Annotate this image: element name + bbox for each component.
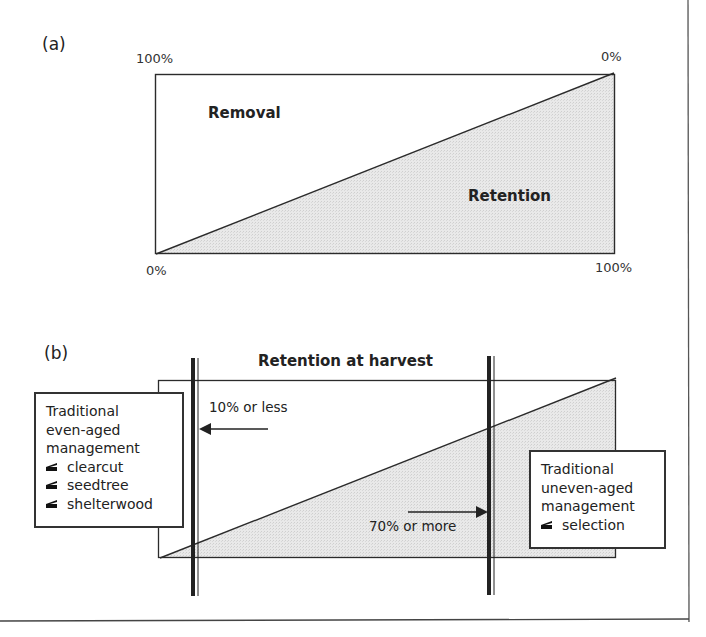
arrow-left-icon (199, 423, 268, 435)
checkbox-tick-icon (46, 463, 57, 471)
method-item-seedtree: seedtree (46, 476, 172, 495)
checkbox-tick-icon (46, 481, 57, 489)
panel-a-chart (156, 73, 615, 254)
threshold-70-label: 70% or more (369, 518, 456, 534)
panel-a-label: (a) (42, 34, 66, 54)
frame-right-edge (688, 0, 689, 622)
uneven-aged-management-box: Traditional uneven-aged management selec… (529, 450, 666, 549)
removal-label: Removal (208, 104, 281, 122)
tick-bottom-right: 100% (595, 260, 632, 275)
panel-b-label: (b) (44, 343, 68, 363)
checkbox-tick-icon (46, 500, 57, 508)
method-item-shelterwood: shelterwood (46, 495, 172, 514)
retention-heading: Retention at harvest (258, 352, 433, 370)
threshold-10-label: 10% or less (209, 399, 288, 415)
tick-bottom-left: 0% (146, 263, 167, 278)
even-aged-title-line-3: management (46, 439, 172, 458)
tick-top-right: 0% (601, 49, 622, 64)
method-label: shelterwood (67, 496, 153, 512)
method-item-selection: selection (541, 516, 654, 535)
even-aged-title-line-2: even-aged (46, 421, 172, 440)
retention-label: Retention (468, 187, 551, 205)
frame-bottom-edge (0, 619, 689, 621)
method-label: clearcut (67, 459, 123, 475)
checkbox-tick-icon (541, 521, 552, 529)
uneven-aged-title-line-2: uneven-aged (541, 479, 654, 498)
even-aged-management-box: Traditional even-aged management clearcu… (34, 392, 184, 528)
tick-top-left: 100% (136, 51, 173, 66)
method-item-clearcut: clearcut (46, 458, 172, 477)
even-aged-title-line-1: Traditional (46, 402, 172, 421)
uneven-aged-title-line-3: management (541, 497, 654, 516)
method-label: seedtree (67, 477, 129, 493)
uneven-aged-title-line-1: Traditional (541, 460, 654, 479)
method-label: selection (562, 517, 625, 533)
